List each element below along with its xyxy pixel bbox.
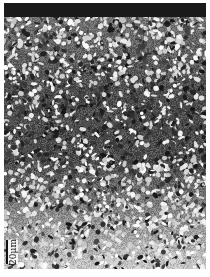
scale-bar-label: 20μm — [9, 239, 18, 265]
top-dark-band — [4, 3, 206, 17]
micrograph-image — [4, 3, 206, 269]
grain-texture — [4, 3, 206, 269]
scale-bar-label-box: 20μm — [8, 240, 18, 264]
